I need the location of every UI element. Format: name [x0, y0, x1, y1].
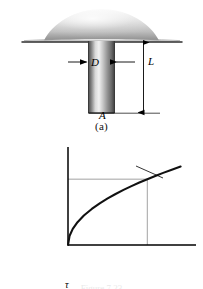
diameter-label: D	[91, 57, 99, 68]
parabola-leader-line	[136, 166, 163, 178]
panel-a-rivet-diagram: D L A (a)	[0, 0, 203, 145]
panel-b-stress-strain-chart: τ 7 × 107 Pa Parabola 10−2 ϵzz (b)	[0, 140, 203, 289]
panel-a-caption: (a)	[0, 120, 203, 132]
figure-container: D L A (a)	[0, 0, 203, 289]
rivet-head	[22, 9, 182, 42]
axes	[68, 147, 196, 245]
rivet-shank	[89, 41, 115, 113]
length-label: L	[148, 56, 154, 67]
reference-lines	[68, 179, 147, 245]
parabola-curve	[68, 167, 181, 245]
stress-strain-plot	[0, 140, 203, 289]
figure-number-caption: Figure 7.23	[0, 283, 203, 289]
